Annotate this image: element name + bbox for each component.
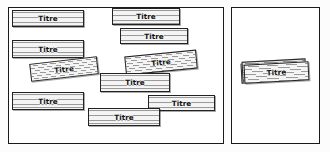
title-card-label: Titre [245, 66, 308, 78]
title-card-label: Titre [149, 99, 214, 108]
title-card[interactable]: Titre [100, 73, 170, 92]
title-card-label: Titre [31, 61, 98, 77]
title-card-label: Titre [13, 14, 83, 23]
title-card[interactable]: Titre [12, 92, 84, 110]
title-card[interactable]: Titre [120, 28, 188, 44]
title-card[interactable]: Titre [88, 108, 160, 126]
title-card[interactable]: Titre [12, 40, 84, 58]
title-card-label: Titre [89, 113, 159, 122]
title-card-label: Titre [101, 78, 169, 87]
title-card-label: Titre [121, 32, 187, 41]
title-card-label: Titre [113, 12, 179, 21]
title-card-label: Titre [13, 97, 83, 106]
title-card[interactable]: Titre [112, 8, 180, 25]
title-card-label: Titre [126, 55, 197, 71]
title-card[interactable]: Titre [12, 10, 84, 27]
title-card-label: Titre [13, 45, 83, 54]
diagram-canvas: TitreTitreTitreTitreTitreTitreTitreTitre… [0, 0, 330, 152]
title-card[interactable]: Titre [244, 61, 310, 83]
